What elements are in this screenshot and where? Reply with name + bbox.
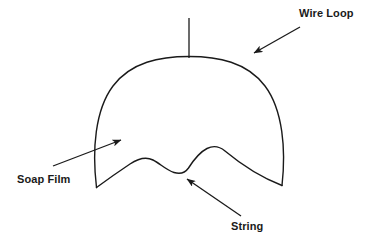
- string-curve: [97, 147, 283, 188]
- string-leader-arrow: [187, 179, 241, 216]
- soap-film-diagram: Wire Loop Soap Film String: [0, 0, 370, 245]
- soap-film-leader-arrow: [53, 140, 121, 166]
- diagram-canvas: [0, 0, 370, 245]
- label-wire-loop: Wire Loop: [299, 8, 354, 19]
- wire-loop-leader-arrow: [254, 27, 300, 53]
- label-string: String: [231, 221, 263, 232]
- label-soap-film: Soap Film: [17, 174, 70, 185]
